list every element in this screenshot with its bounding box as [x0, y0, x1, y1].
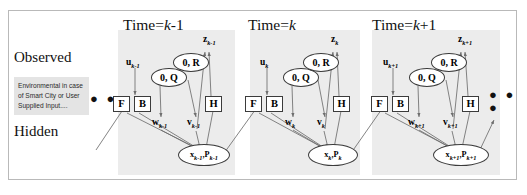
state-node-2-x-sub: k: [328, 153, 331, 160]
slice-title-1-prefix: Time=: [123, 16, 164, 33]
measure-noise-node-2-sub: k: [322, 122, 325, 129]
measure-noise-cov-3: 0, R: [431, 53, 467, 72]
state-node-3-x-sub: k+1: [450, 153, 460, 160]
process-noise-node-2-sub: k: [292, 122, 295, 129]
input-node-3: uk+1: [383, 58, 398, 69]
control-box-1-label: B: [135, 97, 150, 111]
transition-box-1: F: [113, 96, 130, 112]
measure-noise-node-3-sub: k+1: [448, 122, 458, 129]
process-noise-node-1-sub: k-1: [159, 122, 167, 129]
measurement-node-2: zk: [331, 35, 338, 46]
observation-box-2: H: [333, 96, 350, 112]
kalman-filter-dbn-figure: Observed Environmental in case of Smart …: [0, 0, 527, 195]
control-box-3-label: B: [393, 97, 408, 111]
measure-noise-node-3: vk+1: [443, 118, 458, 129]
measurement-node-1: zk-1: [203, 35, 216, 46]
observation-box-1: H: [205, 96, 222, 112]
process-noise-node-2-symbol: w: [285, 117, 292, 127]
hidden-label: Hidden: [14, 124, 58, 139]
input-node-1: uk-1: [126, 58, 140, 69]
measurement-node-3-sub: k+1: [462, 39, 472, 46]
transition-box-3-label: F: [372, 97, 387, 111]
slice-title-2-prefix: Time=: [248, 16, 289, 33]
observation-box-3: H: [462, 96, 479, 112]
state-node-3-text: xk+1,Pk+1: [446, 150, 477, 161]
state-node-2-p-sub: k: [339, 153, 342, 160]
transition-box-3: F: [371, 96, 388, 112]
observation-box-2-label: H: [334, 97, 349, 111]
control-box-1: B: [134, 96, 151, 112]
measure-noise-cov-1: 0, R: [173, 53, 209, 72]
measurement-node-2-sub: k: [335, 39, 338, 46]
slice-title-3-var: k: [413, 16, 420, 33]
state-node-1: xk-1,Pk-1: [178, 144, 230, 166]
state-node-3: xk+1,Pk+1: [433, 144, 489, 166]
process-noise-node-2: wk: [285, 118, 295, 129]
measure-noise-node-1-sub: k-1: [192, 122, 200, 129]
input-node-2: uk: [260, 58, 268, 69]
slice-title-2-var: k: [289, 16, 296, 33]
state-node-1-p-sub: k-1: [210, 153, 218, 160]
slice-title-1: Time=k-1: [123, 17, 184, 33]
environmental-input-note: Environmental in case of Smart City or U…: [14, 77, 89, 115]
process-noise-node-3: wk+1: [408, 118, 425, 129]
observation-box-3-label: H: [463, 97, 478, 111]
control-box-2-label: B: [267, 97, 282, 111]
input-node-1-sub: k-1: [131, 62, 139, 69]
input-node-3-sub: k+1: [388, 62, 398, 69]
process-noise-node-1: wk-1: [152, 118, 167, 129]
transition-box-2: F: [245, 96, 262, 112]
state-node-1-x-sub: k-1: [194, 153, 202, 160]
transition-box-1-label: F: [114, 97, 129, 111]
state-node-2: xk,Pk: [308, 144, 358, 166]
observation-box-1-label: H: [206, 97, 221, 111]
input-node-2-sub: k: [265, 62, 268, 69]
state-node-1-text: xk-1,Pk-1: [190, 150, 218, 161]
slice-title-2: Time=k: [248, 17, 296, 33]
slice-title-1-suffix: -1: [171, 16, 184, 33]
slice-title-3-suffix: +1: [420, 16, 437, 33]
slice-title-1-var: k: [164, 16, 171, 33]
measurement-node-1-sub: k-1: [207, 39, 215, 46]
process-noise-node-1-symbol: w: [152, 117, 159, 127]
ellipsis-right: ● ● ●: [489, 88, 527, 114]
transition-box-2-label: F: [246, 97, 261, 111]
process-noise-node-3-sub: k+1: [415, 122, 425, 129]
process-noise-node-3-symbol: w: [408, 117, 415, 127]
control-box-3: B: [392, 96, 409, 112]
state-node-3-p-sub: k+1: [467, 153, 477, 160]
control-box-2: B: [266, 96, 283, 112]
slice-title-3: Time=k+1: [372, 17, 436, 33]
measure-noise-node-2: vk: [317, 118, 325, 129]
slice-title-3-prefix: Time=: [372, 16, 413, 33]
measure-noise-node-1: vk-1: [187, 118, 200, 129]
observed-label: Observed: [14, 50, 71, 65]
state-node-2-text: xk,Pk: [324, 150, 341, 161]
measure-noise-cov-2: 0, R: [303, 53, 339, 72]
measurement-node-3: zk+1: [458, 35, 472, 46]
